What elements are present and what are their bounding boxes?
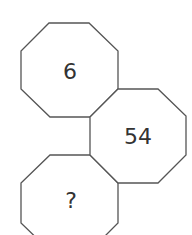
octagon-bottom-label: ? [65,188,77,213]
octagon-puzzle-diagram: 6 ? 54 [0,0,192,235]
octagon-middle-label: 54 [124,124,152,149]
octagon-middle-right: 54 [90,89,186,183]
octagon-top-label: 6 [63,59,77,84]
